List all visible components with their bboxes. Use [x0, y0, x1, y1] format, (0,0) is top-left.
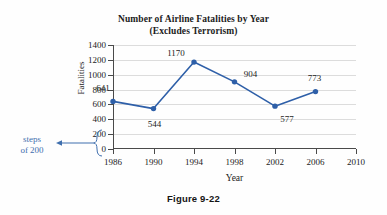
x-axis-tick-label: 1990: [145, 157, 163, 167]
x-axis-tick-label: 2010: [347, 157, 365, 167]
x-axis-tick: [275, 149, 276, 154]
y-axis-tick-label: 1000: [88, 70, 106, 80]
series-line: [113, 62, 316, 108]
x-axis-tick: [154, 149, 155, 154]
steps-annotation-line1: steps: [23, 134, 41, 144]
x-axis-tick-label: 2002: [266, 157, 284, 167]
y-axis-tick-label: 1200: [88, 55, 106, 65]
y-axis-tick-label: 1400: [88, 40, 106, 50]
data-point-label: 641: [96, 83, 110, 93]
y-axis-tick-label: 600: [93, 99, 107, 109]
data-point-label: 544: [148, 119, 162, 129]
y-axis-title: Fatalities: [76, 62, 86, 95]
data-point-marker: [272, 103, 277, 108]
x-axis-tick-label: 1994: [185, 157, 203, 167]
chart-title: Number of Airline Fatalities by Year (Ex…: [0, 13, 387, 37]
steps-annotation-line2: of 200: [20, 145, 43, 155]
steps-annotation-pointer: [54, 128, 114, 160]
data-point-marker: [191, 59, 196, 64]
chart-title-line2: (Excludes Terrorism): [0, 25, 387, 37]
arrow-left-icon: [56, 140, 62, 145]
data-point-marker: [151, 106, 156, 111]
data-point-label: 904: [244, 69, 258, 79]
data-point-marker: [313, 89, 318, 94]
data-point-label: 1170: [167, 48, 185, 58]
data-point-label: 577: [280, 114, 294, 124]
figure-container: Number of Airline Fatalities by Year (Ex…: [0, 0, 387, 215]
plot-area: 0200400600800100012001400 19861990199419…: [113, 45, 356, 149]
x-axis-title: Year: [113, 173, 356, 183]
data-point-label: 773: [308, 73, 322, 83]
figure-caption: Figure 9-22: [0, 193, 387, 204]
x-axis-tick-label: 1998: [226, 157, 244, 167]
chart-title-line1: Number of Airline Fatalities by Year: [118, 14, 269, 24]
y-axis-tick-label: 400: [93, 114, 107, 124]
x-axis-tick-label: 2006: [307, 157, 325, 167]
steps-annotation-label: steps of 200: [8, 134, 56, 156]
data-point-marker: [110, 99, 115, 104]
x-axis-tick: [194, 149, 195, 154]
x-axis-tick: [235, 149, 236, 154]
data-series: [113, 45, 356, 149]
x-axis-tick: [356, 149, 357, 154]
x-axis-tick: [316, 149, 317, 154]
data-point-marker: [232, 79, 237, 84]
brace-icon: [94, 130, 103, 156]
